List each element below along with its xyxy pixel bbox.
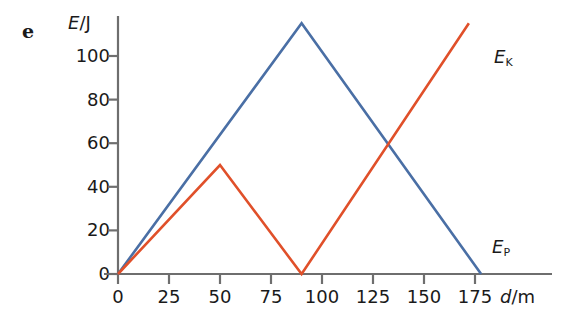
- y-axis-ticks: [108, 56, 118, 274]
- series-line-ep: [118, 23, 481, 274]
- series-group: [118, 23, 481, 274]
- plot-area: [0, 0, 562, 327]
- x-axis-ticks: [118, 274, 475, 284]
- series-line-ek: [118, 23, 469, 274]
- energy-distance-figure: e E/J d/m EK EP 020406080100025507510012…: [0, 0, 562, 327]
- axes-group: [104, 16, 552, 284]
